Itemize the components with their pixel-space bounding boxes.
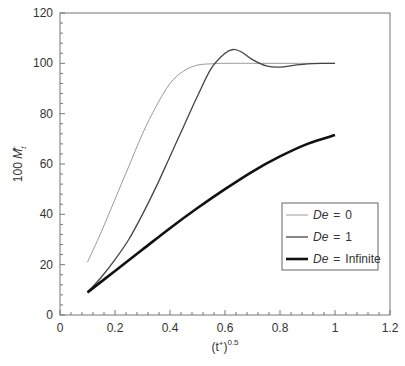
y-axis-tick-labels: 020406080100120 [33,6,53,322]
x-axis-tick-labels: 00.20.40.60.811.2 [57,321,399,335]
y-tick-label: 40 [40,207,54,221]
y-tick-label: 0 [46,308,53,322]
y-tick-label: 60 [40,157,54,171]
x-tick-label: 1 [332,321,339,335]
chart: 020406080100120 00.20.40.60.811.2 100 Mt… [0,0,405,366]
x-tick-label: 1.2 [382,321,399,335]
x-tick-label: 0.6 [217,321,234,335]
x-axis-ticks [60,310,390,315]
svg-text:De=Infinite: De=Infinite [313,252,381,266]
y-tick-label: 100 [33,56,53,70]
y-axis-ticks [60,13,65,315]
x-tick-label: 0.2 [107,321,124,335]
y-axis-label: 100 Mt+ [10,146,28,183]
x-tick-label: 0.4 [162,321,179,335]
x-axis-label: (t+)0.5 [211,338,239,354]
y-tick-label: 80 [40,107,54,121]
svg-text:De=1: De=1 [313,230,352,244]
x-tick-label: 0 [57,321,64,335]
y-tick-label: 20 [40,258,54,272]
y-tick-label: 120 [33,6,53,20]
x-tick-label: 0.8 [272,321,289,335]
legend: De=0 De=1 De=Infinite [282,203,381,270]
svg-text:De=0: De=0 [313,208,352,222]
